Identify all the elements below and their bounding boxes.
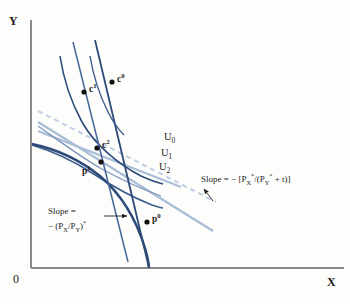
dot-c1: [81, 89, 86, 94]
dot-c2: [94, 145, 99, 150]
dot-p1: [98, 159, 103, 164]
annotation-slope-tax-inclusive-line1: Slope = − [PX*/(PY* + t)]: [201, 174, 291, 184]
curve-label-u1: U1: [161, 147, 172, 161]
x-axis-label: X: [327, 275, 336, 290]
indifference-curve-u0: [60, 56, 163, 184]
annotation-slope-tax-inclusive: Slope = − [PX*/(PY* + t)]: [201, 170, 291, 188]
dashed-tax-price-line: [38, 111, 216, 202]
point-label-c2: c2: [102, 138, 110, 150]
u0-upper-branch-group: [90, 56, 124, 135]
origin-label: 0: [13, 272, 19, 287]
u0-upper-branch: [90, 56, 124, 135]
dot-p0: [144, 219, 149, 224]
annotation-slope-world-prices-line2: − (PX/PY)*: [48, 221, 86, 231]
economics-diagram: Y X 0 U0 U1 U2 c1 c0 c2 p1 p0 Slope = − …: [0, 0, 350, 304]
point-label-p0: p0: [152, 212, 161, 224]
curve-label-u0: U0: [164, 131, 175, 145]
curve-label-u2: U2: [159, 161, 170, 175]
dot-c0: [109, 79, 114, 84]
annotation-slope-world-prices: Slope = − (PX/PY)*: [48, 206, 86, 235]
diagram-canvas: [0, 0, 350, 304]
point-label-c0: c0: [117, 72, 125, 84]
indifference-curves-group: [32, 56, 163, 208]
y-axis-label: Y: [9, 14, 18, 29]
point-label-p1: p1: [82, 164, 91, 176]
annotation-slope-world-prices-line1: Slope =: [48, 206, 76, 216]
point-label-c1: c1: [89, 82, 97, 94]
